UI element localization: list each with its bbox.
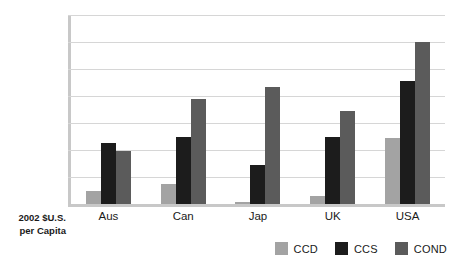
legend-swatch-ccd: [275, 242, 288, 255]
y-axis-caption-line-2: per Capita: [2, 225, 66, 238]
bar-usa-ccs[interactable]: [400, 81, 415, 204]
bar-uk-cond[interactable]: [340, 111, 355, 204]
bar-group: [370, 15, 445, 204]
bar-jap-ccs[interactable]: [250, 165, 265, 204]
bar-aus-ccs[interactable]: [101, 143, 116, 204]
plot-area: [68, 15, 445, 204]
bar-chart: 01000200030004000500060007000 AusCanJapU…: [0, 0, 453, 268]
bar-group-bars: [71, 15, 146, 204]
y-axis-caption: 2002 $U.S. per Capita: [2, 212, 66, 237]
x-axis-label-aus: Aus: [71, 210, 146, 222]
bar-group: [146, 15, 221, 204]
y-axis-caption-line-1: 2002 $U.S.: [2, 212, 66, 225]
bar-can-ccs[interactable]: [176, 137, 191, 204]
bar-group-bars: [146, 15, 221, 204]
bar-jap-ccd[interactable]: [235, 202, 250, 204]
bar-group-bars: [370, 15, 445, 204]
x-axis-label-jap: Jap: [221, 210, 296, 222]
x-axis-label-usa: USA: [370, 210, 445, 222]
chart-legend: CCDCCSCOND: [0, 242, 447, 255]
bar-group-bars: [295, 15, 370, 204]
x-axis-line: [68, 204, 445, 207]
bar-can-ccd[interactable]: [161, 184, 176, 204]
legend-swatch-cond: [395, 242, 408, 255]
legend-swatch-ccs: [335, 242, 348, 255]
legend-label-cond: COND: [414, 243, 447, 255]
bar-group: [71, 15, 146, 204]
bar-groups: [71, 15, 445, 204]
bar-uk-ccs[interactable]: [325, 137, 340, 205]
bar-aus-ccd[interactable]: [86, 191, 101, 205]
x-axis-category-labels: AusCanJapUKUSA: [71, 210, 445, 222]
bar-usa-ccd[interactable]: [385, 138, 400, 204]
x-axis-label-can: Can: [146, 210, 221, 222]
bar-group: [295, 15, 370, 204]
legend-label-ccd: CCD: [294, 243, 318, 255]
bar-usa-cond[interactable]: [415, 42, 430, 204]
bar-jap-cond[interactable]: [265, 87, 280, 204]
legend-label-ccs: CCS: [354, 243, 378, 255]
bar-group-bars: [221, 15, 296, 204]
bar-uk-ccd[interactable]: [310, 196, 325, 204]
legend-item-ccd[interactable]: CCD: [275, 242, 318, 255]
bar-aus-cond[interactable]: [116, 151, 131, 204]
legend-item-ccs[interactable]: CCS: [335, 242, 378, 255]
bar-group: [221, 15, 296, 204]
legend-item-cond[interactable]: COND: [395, 242, 447, 255]
bar-can-cond[interactable]: [191, 99, 206, 204]
x-axis-label-uk: UK: [295, 210, 370, 222]
